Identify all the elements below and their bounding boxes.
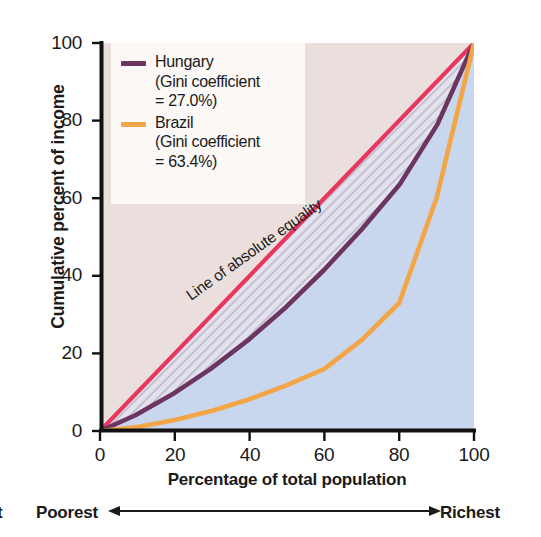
x-axis-label: Percentage of total population — [100, 470, 474, 490]
x-tick-label-60: 60 — [289, 444, 359, 466]
y-tick-label-40: 40 — [22, 264, 82, 286]
legend-label-brazil-gini-1: (Gini coefficient — [155, 132, 260, 152]
x-tick-label-100: 100 — [439, 444, 509, 466]
legend-swatch-brazil — [121, 122, 146, 127]
poorest-label: Poorest — [36, 503, 98, 523]
chart-legend: Hungary (Gini coefficient = 27.0%) Brazi… — [111, 43, 305, 204]
y-tick-label-0: 0 — [22, 420, 82, 442]
y-tick-label-20: 20 — [22, 342, 82, 364]
lorenz-curve-figure: Cumulative percent of income Percentage … — [0, 0, 541, 537]
legend-item-hungary[interactable]: Hungary (Gini coefficient = 27.0%) — [121, 52, 305, 111]
x-tick-label-0: 0 — [65, 444, 135, 466]
poorest-richest-arrow — [108, 506, 441, 516]
legend-item-brazil[interactable]: Brazil (Gini coefficient = 63.4%) — [121, 113, 305, 172]
legend-swatch-hungary — [121, 61, 146, 66]
legend-label-brazil-name: Brazil — [155, 113, 260, 133]
legend-label-hungary-gini-2: = 27.0%) — [155, 91, 260, 111]
y-tick-label-100: 100 — [22, 32, 82, 54]
x-tick-label-40: 40 — [215, 444, 285, 466]
y-tick-marks — [92, 43, 100, 431]
x-tick-label-20: 20 — [140, 444, 210, 466]
y-tick-label-80: 80 — [22, 109, 82, 131]
x-tick-label-80: 80 — [364, 444, 434, 466]
y-tick-label-60: 60 — [22, 187, 82, 209]
legend-label-hungary-name: Hungary — [155, 52, 260, 72]
legend-label-hungary-gini-1: (Gini coefficient — [155, 72, 260, 92]
cut-off-glyph: t — [0, 503, 3, 523]
legend-label-brazil-gini-2: = 63.4%) — [155, 152, 260, 172]
richest-label: Richest — [440, 503, 500, 523]
